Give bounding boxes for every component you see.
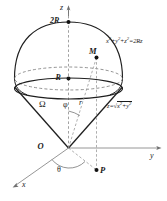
figure-canvas [0,0,167,201]
cone-equation: z=√x2+y2 [107,101,132,110]
sphere-center-label: R [56,74,61,82]
polar-angle-label: φ [63,101,68,109]
sphere-lower-outline [15,79,28,95]
angle-arc-group [52,111,85,168]
radius-segment-om [69,58,97,149]
cone-generator-left [15,87,69,148]
point-projection-group [69,56,99,173]
point-m-dot [95,56,99,60]
azimuth-angle-label: θ [57,166,61,174]
point-p-label: P [100,166,105,175]
polar-angle-arc [69,111,80,116]
ground-segment-op [69,148,97,170]
cone-eq-y-exp: 2 [129,101,131,106]
y-axis-label: y [150,152,154,160]
point-p-dot [95,168,99,172]
sphere-eq-z: +z [120,37,127,44]
cone-eq-prefix: z= [107,102,114,109]
sphere-top-label: 2R [50,17,59,25]
sphere-equation: x2+y2+z2=2Rz [106,37,142,45]
sphere-lower-outline-right [110,79,123,95]
z-axis-label: z [60,4,63,12]
x-axis-label: x [22,181,26,189]
sphere-eq-y: +y [111,37,118,44]
cone-generator-right [69,87,123,148]
sphere-top-dot [67,20,71,24]
sqrt-overbar: x2+y2 [117,101,132,110]
radius-label: r [79,99,82,107]
geometry-figure: z y x 2R R M P O Ω φ θ r x2+y2+z2=2Rz z=… [0,0,167,201]
point-m-label: M [89,47,97,56]
solid-region-label: Ω [39,100,46,109]
origin-label: O [38,142,44,151]
sphere-eq-rhs: =2Rz [129,37,143,44]
cone-eq-y: +y [122,102,129,109]
